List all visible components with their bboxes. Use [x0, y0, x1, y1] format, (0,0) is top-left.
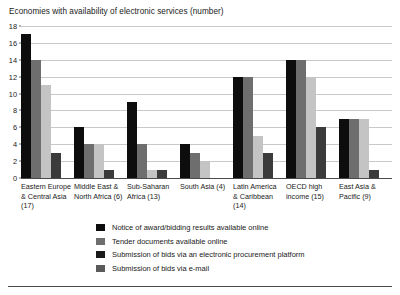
legend-label: Tender documents available online: [112, 237, 228, 246]
y-axis-tick-label: 0: [13, 174, 17, 183]
x-axis-category-label: Middle East & North Africa (6): [74, 182, 127, 216]
y-axis-tick-label: 16: [9, 38, 17, 47]
bar[interactable]: [359, 119, 369, 178]
x-axis-category-label: Eastern Europe & Central Asia (17): [21, 182, 74, 216]
x-axis-category-label: OECD high income (15): [286, 182, 339, 216]
plot-area: 181614121086420: [21, 26, 392, 178]
legend-label: Submission of bids via an electronic pro…: [112, 250, 305, 259]
bar[interactable]: [369, 170, 379, 178]
bar[interactable]: [263, 153, 273, 178]
bar-group: [127, 26, 180, 178]
chart-figure: Economies with availability of electroni…: [0, 0, 400, 295]
legend-swatch-icon: [96, 265, 105, 272]
bar-group: [74, 26, 127, 178]
y-axis-tick-label: 8: [13, 106, 17, 115]
y-axis-tick-label: 6: [13, 123, 17, 132]
footer-divider: [8, 286, 392, 287]
bar[interactable]: [104, 170, 114, 178]
bar[interactable]: [31, 60, 41, 178]
legend-swatch-icon: [96, 251, 105, 258]
legend-label: Notice of award/bidding results availabl…: [112, 223, 268, 232]
bar[interactable]: [306, 77, 316, 178]
bar-group: [21, 26, 74, 178]
bar[interactable]: [286, 60, 296, 178]
bar[interactable]: [74, 127, 84, 178]
y-axis-tick-label: 12: [9, 72, 17, 81]
y-axis-tick-label: 18: [9, 22, 17, 31]
x-axis-category-label: Latin America & Caribbean (14): [233, 182, 286, 216]
y-axis-tick-label: 4: [13, 140, 17, 149]
legend-item[interactable]: Tender documents available online: [96, 235, 386, 249]
legend-swatch-icon: [96, 224, 105, 231]
y-axis: 181614121086420: [0, 26, 21, 178]
bar[interactable]: [253, 136, 263, 178]
chart-title: Economies with availability of electroni…: [9, 7, 224, 16]
legend-item[interactable]: Notice of award/bidding results availabl…: [96, 221, 386, 235]
bar[interactable]: [127, 102, 137, 178]
bar-series-container: [21, 26, 392, 178]
y-axis-tick-label: 2: [13, 157, 17, 166]
y-axis-tick-label: 10: [9, 89, 17, 98]
bar[interactable]: [180, 144, 190, 178]
bar[interactable]: [349, 119, 359, 178]
bar[interactable]: [157, 170, 167, 178]
bar[interactable]: [233, 77, 243, 178]
bar-group: [233, 26, 286, 178]
bar[interactable]: [137, 144, 147, 178]
bar[interactable]: [147, 170, 157, 178]
bar[interactable]: [190, 153, 200, 178]
legend-swatch-icon: [96, 238, 105, 245]
bar[interactable]: [41, 85, 51, 178]
x-axis-labels: Eastern Europe & Central Asia (17)Middle…: [21, 182, 392, 216]
bar[interactable]: [296, 60, 306, 178]
legend-label: Submission of bids via e-mail: [112, 264, 209, 273]
bar[interactable]: [200, 161, 210, 178]
chart-legend: Notice of award/bidding results availabl…: [96, 221, 386, 275]
bar[interactable]: [339, 119, 349, 178]
bar[interactable]: [84, 144, 94, 178]
x-axis-category-label: Sub-Saharan Africa (13): [127, 182, 180, 216]
legend-item[interactable]: Submission of bids via an electronic pro…: [96, 248, 386, 262]
bar[interactable]: [316, 127, 326, 178]
legend-item[interactable]: Submission of bids via e-mail: [96, 262, 386, 276]
bar-group: [286, 26, 339, 178]
bar[interactable]: [94, 144, 104, 178]
bar[interactable]: [243, 77, 253, 178]
bar-group: [180, 26, 233, 178]
x-axis-category-label: East Asia & Pacific (9): [339, 182, 392, 216]
bar[interactable]: [21, 34, 31, 178]
y-axis-tick-label: 14: [9, 55, 17, 64]
bar-group: [339, 26, 392, 178]
bar[interactable]: [51, 153, 61, 178]
x-axis-category-label: South Asia (4): [180, 182, 233, 216]
axis-baseline: [21, 178, 392, 179]
